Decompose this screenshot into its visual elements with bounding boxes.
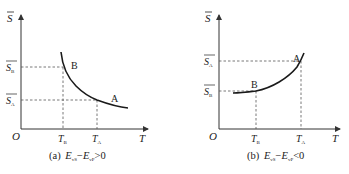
point-label-a: A [111,93,119,104]
panel-b: S O T SA SB TB TA A B (b) EvS−EvP<0 [204,12,340,162]
y-tick-s-a: SA [204,56,213,68]
y-tick-s-b: SB [204,86,213,98]
point-label-b: B [251,79,258,90]
y-tick-s-a: SA [6,95,15,107]
x-tick-t-a: TA [92,133,102,145]
y-axis-label: S [205,12,211,24]
x-axis-label: T [332,132,339,144]
point-label-b: B [71,60,78,71]
origin-label: O [12,130,20,142]
guide-lines [219,61,301,129]
y-axis-label: S [7,12,13,24]
x-tick-t-b: TB [251,133,261,145]
x-tick-t-b: TB [58,133,68,145]
x-tick-t-a: TA [296,133,306,145]
caption-b: (b) EvS−EvP<0 [247,150,304,162]
panel-a: S O T SB SA TB TA B A (a) EvS−EvP>0 [6,12,148,162]
origin-label: O [209,130,217,142]
y-tick-s-b: SB [6,62,15,74]
caption-a: (a) EvS−EvP>0 [49,150,106,162]
diagram-canvas: S O T SB SA TB TA B A (a) EvS−EvP>0 [0,0,349,174]
guide-lines [21,67,97,129]
point-label-a: A [293,53,301,64]
x-axis-label: T [139,132,146,144]
